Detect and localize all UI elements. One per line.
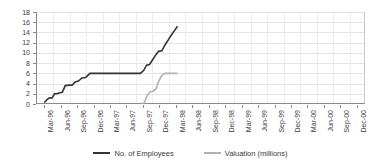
series-line-valuation: [141, 73, 177, 103]
x-axis-tick-mark: [94, 105, 95, 108]
legend-swatch-icon: [93, 152, 110, 154]
chart-container: 024681012141618 Mar-96Jun-96Sep-96Dec-96…: [0, 0, 381, 165]
x-axis-tick-mark: [77, 105, 78, 108]
x-axis-tick-label: Jun-96: [64, 110, 72, 131]
y-axis-tick-label: 10: [22, 49, 30, 56]
legend-item-label: No. of Employees: [114, 149, 173, 158]
x-axis-tick-label: Mar-96: [47, 110, 55, 132]
x-axis-tick-mark: [225, 105, 226, 108]
y-axis-tick-label: 6: [26, 70, 30, 77]
x-axis-tick-mark: [242, 105, 243, 108]
x-axis-tick-label: Mar-97: [113, 110, 121, 132]
y-axis-tick-label: 4: [26, 80, 30, 87]
x-axis-tick-mark: [209, 105, 210, 108]
y-axis-tick-label: 2: [26, 90, 30, 97]
x-axis-tick-mark: [258, 105, 259, 108]
y-axis-tick-label: 8: [26, 60, 30, 67]
x-axis-tick-mark: [357, 105, 358, 108]
x-axis-tick-label: Sep-98: [212, 110, 220, 133]
x-axis-tick-label: Sep-00: [343, 110, 351, 133]
x-axis: Mar-96Jun-96Sep-96Dec-96Mar-97Jun-97Sep-…: [36, 105, 366, 149]
x-axis-tick-label: Jun-00: [327, 110, 335, 131]
x-axis-tick-label: Jun-98: [195, 110, 203, 131]
x-axis-tick-mark: [275, 105, 276, 108]
x-axis-tick-mark: [143, 105, 144, 108]
y-axis-tick-label: 16: [22, 19, 30, 26]
y-axis-tick-label: 12: [22, 39, 30, 46]
x-axis-tick-mark: [192, 105, 193, 108]
y-axis: 024681012141618: [0, 0, 34, 120]
legend-item-label: Valuation (millions): [225, 149, 288, 158]
x-axis-tick-label: Mar-99: [245, 110, 253, 132]
y-axis-tick-label: 0: [26, 101, 30, 108]
legend-swatch-icon: [204, 152, 221, 154]
x-axis-tick-mark: [61, 105, 62, 108]
x-axis-tick-mark: [44, 105, 45, 108]
x-axis-tick-label: Dec-98: [228, 110, 236, 133]
x-axis-tick-label: Jun-97: [129, 110, 137, 131]
x-axis-tick-label: Sep-99: [278, 110, 286, 133]
chart-legend: No. of Employees Valuation (millions): [0, 145, 381, 161]
x-axis-tick-mark: [126, 105, 127, 108]
x-axis-tick-label: Mar-98: [179, 110, 187, 132]
x-axis-tick-label: Mar-00: [310, 110, 318, 132]
x-axis-tick-mark: [159, 105, 160, 108]
x-axis-tick-label: Dec-97: [162, 110, 170, 133]
x-axis-tick-mark: [324, 105, 325, 108]
legend-item-valuation: Valuation (millions): [204, 149, 288, 158]
x-axis-tick-label: Dec-96: [97, 110, 105, 133]
x-axis-tick-mark: [291, 105, 292, 108]
x-axis-tick-mark: [307, 105, 308, 108]
y-axis-tick-label: 14: [22, 29, 30, 36]
x-axis-tick-mark: [176, 105, 177, 108]
y-axis-tick-label: 18: [22, 9, 30, 16]
x-axis-tick-label: Dec-99: [294, 110, 302, 133]
x-axis-tick-label: Sep-96: [80, 110, 88, 133]
x-axis-tick-label: Jun-99: [261, 110, 269, 131]
series-line-no-of-employees: [44, 26, 177, 102]
legend-item-no-of-employees: No. of Employees: [93, 149, 173, 158]
x-axis-tick-label: Dec-00: [360, 110, 368, 133]
x-axis-tick-mark: [110, 105, 111, 108]
x-axis-tick-label: Sep-97: [146, 110, 154, 133]
series-layer: [36, 12, 365, 104]
x-axis-tick-mark: [340, 105, 341, 108]
